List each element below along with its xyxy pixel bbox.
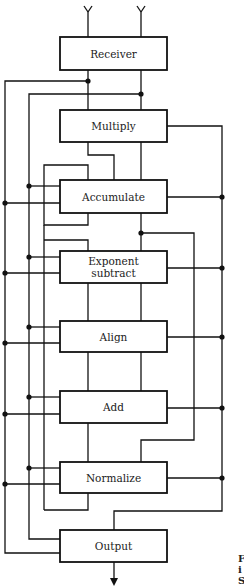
antenna-icon	[137, 6, 145, 37]
normalize-label: Normalize	[60, 472, 167, 484]
accumulate-label: Accumulate	[60, 191, 167, 203]
exponent-label-line2: subtract	[60, 267, 167, 279]
output-label: Output	[60, 540, 167, 552]
arrow-down-icon	[110, 578, 118, 586]
add-label: Add	[60, 401, 167, 413]
align-label: Align	[60, 331, 167, 343]
exponent-label-line1: Exponent	[60, 255, 167, 267]
multiply-label: Multiply	[60, 120, 167, 132]
receiver-label: Receiver	[60, 48, 167, 60]
caption-fragment-3: S	[238, 575, 244, 587]
diagram-canvas	[0, 0, 244, 587]
antenna-icon	[84, 6, 92, 37]
